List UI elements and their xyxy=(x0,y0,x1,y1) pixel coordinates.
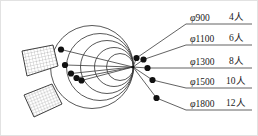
leader-line-1300 xyxy=(133,67,186,68)
legend-count-1100: 6人 xyxy=(229,34,244,44)
diameter-value-900: 900 xyxy=(196,13,210,23)
diameter-value-1300: 1300 xyxy=(196,57,215,67)
leader-line-1100 xyxy=(133,45,186,67)
legend-diameter-1300: φ1300 xyxy=(190,57,215,68)
spoke-left-1500 xyxy=(65,65,133,67)
diameter-value-1800: 1800 xyxy=(196,99,215,109)
diameter-value-1500: 1500 xyxy=(196,77,215,87)
leader-lines-group xyxy=(133,24,186,110)
spoke-left-1800 xyxy=(61,50,133,68)
dot-left-1800 xyxy=(58,46,64,52)
leader-line-1800 xyxy=(133,67,186,110)
apex-node xyxy=(131,65,134,68)
dot-left-1500 xyxy=(62,62,68,68)
dot-left-1300 xyxy=(68,70,74,76)
dot-right-1500 xyxy=(149,77,155,83)
hatched-panels-group xyxy=(22,45,62,117)
dot-right-1100 xyxy=(140,56,146,62)
legend-count-1500: 10人 xyxy=(226,77,246,87)
dot-right-900 xyxy=(133,55,139,61)
legend-count-1800: 12人 xyxy=(226,99,246,109)
right-dots-group xyxy=(133,55,159,101)
legend-diameter-900: φ900 xyxy=(190,13,210,24)
spoke-left-1100 xyxy=(77,67,134,78)
legend-diameter-1500: φ1500 xyxy=(190,77,215,88)
dot-right-1300 xyxy=(144,65,150,71)
diagram-canvas xyxy=(0,0,258,136)
diameter-value-1100: 1100 xyxy=(196,34,215,44)
dot-right-1800 xyxy=(153,95,159,101)
dot-left-1100 xyxy=(73,75,79,81)
legend-count-900: 4人 xyxy=(229,13,244,23)
figure-root: φ900 4人 φ1100 6人 φ1300 8人 φ1500 10人 φ180… xyxy=(0,0,258,136)
spoke-left-900 xyxy=(82,67,134,81)
legend-diameter-1100: φ1100 xyxy=(190,34,214,45)
legend-diameter-1800: φ1800 xyxy=(190,99,215,110)
hatched-panel-upper xyxy=(22,45,58,76)
legend-count-1300: 8人 xyxy=(229,57,244,67)
